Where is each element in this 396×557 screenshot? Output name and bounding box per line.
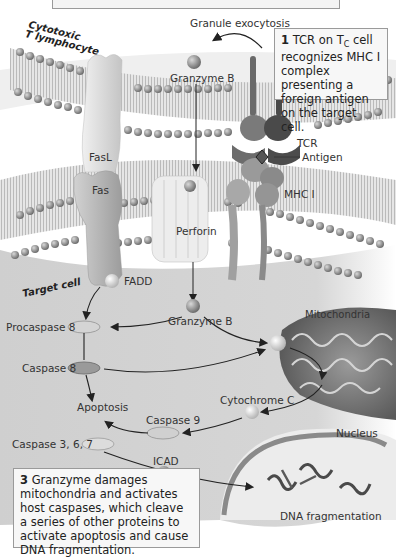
mito-entry-molecule [270, 335, 286, 351]
caspase8-label: Caspase 8 [22, 363, 76, 374]
callout-step1: 1 TCR on TC cell recognizes MHC I comple… [274, 28, 388, 100]
perforin-label: Perforin [176, 226, 217, 237]
mitochondria-label: Mitochondria [305, 310, 370, 320]
granule-exocytosis-label: Granule exocytosis [190, 18, 290, 29]
nucleus-label: Nucleus [336, 428, 378, 439]
perforin-pore [152, 176, 208, 262]
granzyme-b-top-label: Granzyme B [170, 73, 235, 84]
caspase367-label: Caspase 3, 6, 7 [12, 439, 93, 450]
callout-step1-text-a: TCR on T [293, 33, 344, 47]
cytochrome-c-label: Cytochrome C [220, 395, 294, 406]
antigen-label: Antigen [302, 152, 343, 163]
fadd-molecule [105, 274, 119, 288]
caspase9-label: Caspase 9 [146, 415, 200, 426]
fas-label: Fas [92, 185, 109, 196]
fasl-label: FasL [89, 152, 112, 163]
callout-step3-text: Granzyme damages mitochondria and activa… [20, 473, 188, 557]
cytochrome-c-molecule [245, 405, 259, 419]
fadd-label: FADD [124, 276, 152, 287]
icad-label: ICAD [153, 456, 179, 467]
callout-step3: 3 Granzyme damages mitochondria and acti… [13, 468, 200, 548]
callout-step1-number: 1 [281, 33, 289, 47]
procaspase8-label: Procaspase 8 [6, 322, 75, 333]
callout-step3-number: 3 [20, 473, 28, 487]
caspase9-molecule [147, 427, 179, 439]
tcr-label: TCR [297, 138, 317, 149]
granzyme-b-bottom-label: Granzyme B [168, 316, 233, 327]
dna-fragmentation-label: DNA fragmentation [280, 511, 382, 522]
callout-step2-fragment [52, 0, 340, 9]
granzyme-b-granule [187, 55, 201, 69]
granzyme-b-cytoplasm [186, 299, 200, 313]
mhc1-label: MHC I [284, 189, 315, 200]
apoptosis-label: Apoptosis [77, 402, 128, 413]
